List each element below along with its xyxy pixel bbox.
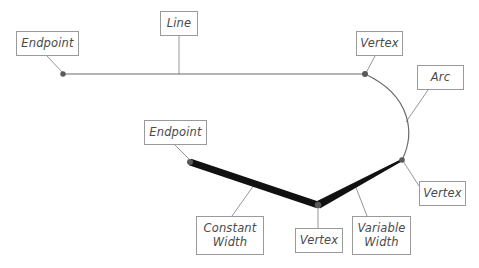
node-vertex-line-arc (362, 71, 368, 77)
callout-label-text: Vertex (423, 187, 461, 201)
callout-label-text: Variable Width (358, 222, 406, 249)
diagram-canvas: EndpointLineVertexArcEndpointVertexConst… (0, 0, 479, 268)
callout-label-text: Constant Width (204, 222, 257, 249)
callout-label-text: Line (167, 17, 192, 31)
arc-segment (365, 74, 409, 160)
callout-variable-width[interactable]: Variable Width (352, 216, 411, 255)
callout-label-text: Vertex (360, 37, 398, 51)
node-endpoint-line-left (60, 71, 65, 76)
callout-label-text: Endpoint (21, 37, 73, 51)
leader-endpoint-top-left (47, 56, 63, 73)
node-endpoint-polyline-left (187, 159, 193, 165)
callout-vertex-top-right[interactable]: Vertex (356, 31, 403, 56)
callout-line[interactable]: Line (160, 11, 198, 36)
leader-endpoint-lower-left (175, 145, 191, 161)
callout-label-text: Endpoint (149, 126, 201, 140)
node-vertex-arc-polyline (399, 157, 405, 163)
node-vertex-polyline-mid (315, 202, 321, 208)
leader-variable-width (355, 185, 367, 216)
geometry-strokes-group (63, 74, 409, 209)
variable-width-segment (316, 159, 402, 208)
callout-constant-width[interactable]: Constant Width (196, 216, 264, 255)
callout-arc[interactable]: Arc (417, 65, 464, 90)
leader-vertex-top-right (366, 56, 375, 73)
callout-vertex-bottom[interactable]: Vertex (295, 228, 343, 253)
constant-width-segment (190, 162, 318, 205)
callout-endpoint-lower-left[interactable]: Endpoint (144, 120, 207, 145)
callout-label-text: Vertex (300, 234, 338, 248)
callout-endpoint-top-left[interactable]: Endpoint (16, 31, 79, 56)
callout-label-text: Arc (431, 71, 450, 85)
leader-constant-width (232, 185, 254, 216)
leader-lines-group (47, 36, 428, 228)
leader-vertex-right (403, 161, 419, 186)
callout-vertex-right[interactable]: Vertex (419, 181, 466, 206)
leader-arc (406, 90, 428, 122)
